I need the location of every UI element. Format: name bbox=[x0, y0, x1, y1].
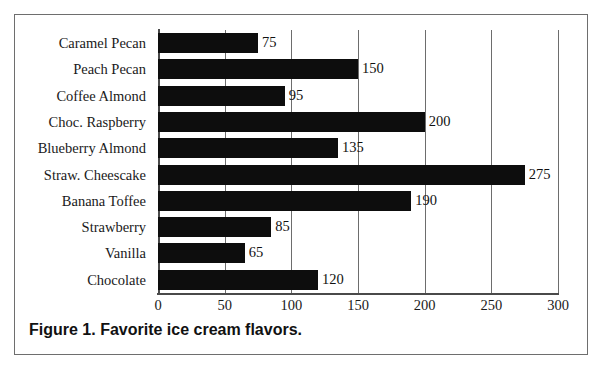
bar-chart: Caramel PecanPeach PecanCoffee AlmondCho… bbox=[15, 15, 589, 311]
bar-row[interactable]: 135 bbox=[158, 135, 558, 161]
x-tick-label: 100 bbox=[280, 295, 302, 315]
bar-row[interactable]: 65 bbox=[158, 240, 558, 266]
bar-row[interactable]: 75 bbox=[158, 30, 558, 56]
bar[interactable] bbox=[158, 243, 245, 263]
category-label: Coffee Almond bbox=[15, 83, 146, 109]
x-tick-label: 50 bbox=[217, 295, 232, 315]
bar[interactable] bbox=[158, 59, 358, 79]
bar[interactable] bbox=[158, 112, 425, 132]
category-label: Straw. Cheescake bbox=[15, 162, 146, 188]
bar[interactable] bbox=[158, 138, 338, 158]
category-label: Caramel Pecan bbox=[15, 30, 146, 56]
x-tick-label: 300 bbox=[547, 295, 569, 315]
category-label: Peach Pecan bbox=[15, 56, 146, 82]
x-tick-label: 0 bbox=[154, 295, 161, 315]
bar-value-label: 75 bbox=[258, 31, 277, 53]
bar[interactable] bbox=[158, 86, 285, 106]
category-label: Chocolate bbox=[15, 267, 146, 293]
bar-value-label: 120 bbox=[318, 268, 344, 290]
category-axis-labels: Caramel PecanPeach PecanCoffee AlmondCho… bbox=[15, 30, 152, 293]
figure-frame: Caramel PecanPeach PecanCoffee AlmondCho… bbox=[14, 14, 588, 355]
gridline bbox=[558, 30, 559, 293]
bar-row[interactable]: 95 bbox=[158, 83, 558, 109]
category-label: Vanilla bbox=[15, 240, 146, 266]
bar[interactable] bbox=[158, 165, 525, 185]
category-label: Strawberry bbox=[15, 214, 146, 240]
bar[interactable] bbox=[158, 33, 258, 53]
bar-row[interactable]: 190 bbox=[158, 188, 558, 214]
bar-value-label: 95 bbox=[285, 84, 304, 106]
figure-screenshot: Caramel PecanPeach PecanCoffee AlmondCho… bbox=[0, 0, 604, 366]
bar[interactable] bbox=[158, 191, 411, 211]
x-axis-tick-labels: 050100150200250300 bbox=[158, 295, 558, 317]
x-tick-label: 150 bbox=[347, 295, 369, 315]
bar-value-label: 85 bbox=[271, 215, 290, 237]
bar[interactable] bbox=[158, 217, 271, 237]
category-label: Choc. Raspberry bbox=[15, 109, 146, 135]
bar-value-label: 135 bbox=[338, 136, 364, 158]
bar-row[interactable]: 120 bbox=[158, 267, 558, 293]
x-tick-label: 250 bbox=[480, 295, 502, 315]
plot-area: 75150952001352751908565120 bbox=[158, 30, 558, 293]
category-label: Banana Toffee bbox=[15, 188, 146, 214]
bar-row[interactable]: 85 bbox=[158, 214, 558, 240]
category-label: Blueberry Almond bbox=[15, 135, 146, 161]
bar[interactable] bbox=[158, 270, 318, 290]
bar-value-label: 190 bbox=[411, 189, 437, 211]
bar-row[interactable]: 275 bbox=[158, 162, 558, 188]
bar-value-label: 200 bbox=[425, 110, 451, 132]
bar-row[interactable]: 200 bbox=[158, 109, 558, 135]
figure-caption: Figure 1. Favorite ice cream flavors. bbox=[29, 318, 569, 342]
bar-value-label: 65 bbox=[245, 241, 264, 263]
bar-row[interactable]: 150 bbox=[158, 56, 558, 82]
x-tick-label: 200 bbox=[414, 295, 436, 315]
bar-value-label: 150 bbox=[358, 57, 384, 79]
bar-value-label: 275 bbox=[525, 163, 551, 185]
